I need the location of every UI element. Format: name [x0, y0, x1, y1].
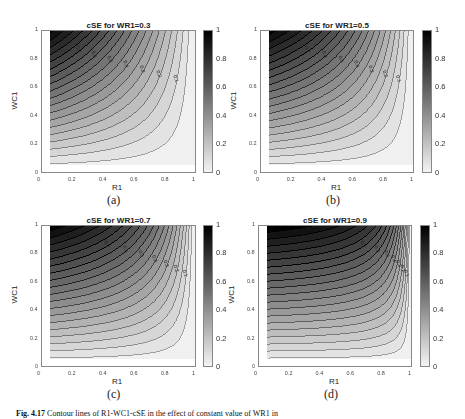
y-tick-label: 0.8: [30, 55, 38, 61]
colorbar-tick-label: 1: [433, 220, 437, 229]
y-tick-label: 1: [35, 221, 38, 227]
colorbar-tick-label: 0.2: [216, 139, 226, 148]
colorbar-tick-label: 0.2: [216, 334, 226, 343]
colorbar-tick-label: 0.4: [216, 305, 226, 314]
y-tick-label: 0.2: [249, 140, 257, 146]
contour-plot: [259, 226, 411, 366]
y-tick-label: 0.6: [247, 278, 255, 284]
colorbar: [203, 30, 213, 173]
y-axis-label: WC1: [229, 92, 238, 110]
x-tick-label: 0.6: [348, 176, 356, 182]
x-tick-label: 1: [410, 176, 413, 182]
colorbar: [420, 225, 430, 367]
x-tick-label: 0.4: [318, 176, 326, 182]
x-tick-label: 0.2: [287, 176, 295, 182]
colorbar-tick-label: 0.2: [435, 139, 445, 148]
y-tick-label: 0.4: [249, 112, 257, 118]
x-tick-label: 1: [192, 370, 195, 376]
subfigure-label: (b): [326, 193, 340, 208]
x-tick-label: 0: [256, 176, 259, 182]
colorbar-tick-label: 0.4: [216, 111, 226, 120]
colorbar: [203, 225, 213, 367]
colorbar-tick-label: 1: [435, 25, 439, 34]
colorbar-tick-label: 0.8: [216, 54, 226, 63]
y-axis-label: WC1: [227, 286, 236, 304]
colorbar-tick-label: 0: [435, 168, 439, 177]
x-tick-label: 0.4: [99, 176, 107, 182]
colorbar-tick-label: 0.4: [435, 111, 445, 120]
plot-title: cSE for WR1=0.5: [260, 21, 414, 30]
y-axis-label: WC1: [10, 286, 19, 304]
colorbar-tick-label: 0.4: [433, 305, 443, 314]
colorbar-tick-label: 1: [216, 220, 220, 229]
y-tick-label: 0.6: [249, 83, 257, 89]
subfigure-label: (a): [107, 193, 120, 208]
x-tick-label: 0.2: [68, 176, 76, 182]
contour-plot: [42, 31, 195, 172]
y-tick-label: 0.8: [247, 249, 255, 255]
plot-title: cSE for WR1=0.9: [258, 216, 412, 225]
y-tick-label: 0.2: [30, 335, 38, 341]
y-tick-label: 0: [35, 169, 38, 175]
subfigure-label: (d): [324, 387, 338, 402]
x-tick-label: 0: [37, 176, 40, 182]
colorbar-tick-label: 0.8: [435, 54, 445, 63]
y-tick-label: 0.6: [30, 83, 38, 89]
caption-text: Contour lines of R1-WC1-cSE in the effec…: [47, 409, 278, 418]
subfigure-label: (c): [107, 387, 120, 402]
y-tick-label: 0: [254, 169, 257, 175]
colorbar-tick-label: 1: [216, 25, 220, 34]
x-axis-label: R1: [331, 183, 341, 192]
y-tick-label: 0.4: [247, 306, 255, 312]
y-tick-label: 0.2: [247, 335, 255, 341]
y-tick-label: 0.6: [30, 278, 38, 284]
colorbar-tick-label: 0.6: [216, 82, 226, 91]
y-tick-label: 0: [252, 363, 255, 369]
y-tick-label: 1: [254, 26, 257, 32]
x-axis-label: R1: [112, 183, 122, 192]
x-axis-label: R1: [329, 377, 339, 386]
x-tick-label: 0.8: [379, 176, 387, 182]
contour-axes: [258, 225, 412, 367]
colorbar-tick-label: 0.6: [435, 82, 445, 91]
colorbar-tick-label: 0: [433, 362, 437, 371]
colorbar-tick-label: 0: [216, 168, 220, 177]
y-tick-label: 0.4: [30, 306, 38, 312]
y-tick-label: 1: [252, 221, 255, 227]
colorbar: [422, 30, 432, 173]
plot-title: cSE for WR1=0.3: [41, 21, 196, 30]
x-tick-label: 0.2: [285, 370, 293, 376]
x-axis-label: R1: [112, 377, 122, 386]
colorbar-tick-label: 0: [216, 362, 220, 371]
colorbar-tick-label: 0.6: [433, 277, 443, 286]
x-tick-label: 0: [254, 370, 257, 376]
y-tick-label: 0.4: [30, 112, 38, 118]
x-tick-label: 0.8: [161, 176, 169, 182]
x-tick-label: 1: [408, 370, 411, 376]
colorbar-tick-label: 0.6: [216, 277, 226, 286]
x-tick-label: 0.4: [99, 370, 107, 376]
contour-axes: [41, 225, 196, 367]
y-tick-label: 0.8: [30, 249, 38, 255]
y-tick-label: 0.2: [30, 140, 38, 146]
contour-plot: [42, 226, 195, 366]
colorbar-tick-label: 0.8: [433, 248, 443, 257]
contour-axes: [41, 30, 196, 173]
contour-plot: [261, 31, 413, 172]
x-tick-label: 0: [37, 370, 40, 376]
caption-label: Fig. 4.17: [16, 409, 45, 418]
x-tick-label: 0.2: [68, 370, 76, 376]
colorbar-tick-label: 0.8: [216, 248, 226, 257]
x-tick-label: 0.6: [130, 176, 138, 182]
x-tick-label: 0.6: [130, 370, 138, 376]
plot-title: cSE for WR1=0.7: [41, 216, 196, 225]
y-tick-label: 0: [35, 363, 38, 369]
figure-caption: Fig. 4.17 Contour lines of R1-WC1-cSE in…: [16, 409, 278, 418]
y-axis-label: WC1: [10, 92, 19, 110]
x-tick-label: 0.8: [377, 370, 385, 376]
colorbar-tick-label: 0.2: [433, 334, 443, 343]
y-tick-label: 0.8: [249, 55, 257, 61]
x-tick-label: 1: [192, 176, 195, 182]
x-tick-label: 0.4: [316, 370, 324, 376]
x-tick-label: 0.8: [161, 370, 169, 376]
